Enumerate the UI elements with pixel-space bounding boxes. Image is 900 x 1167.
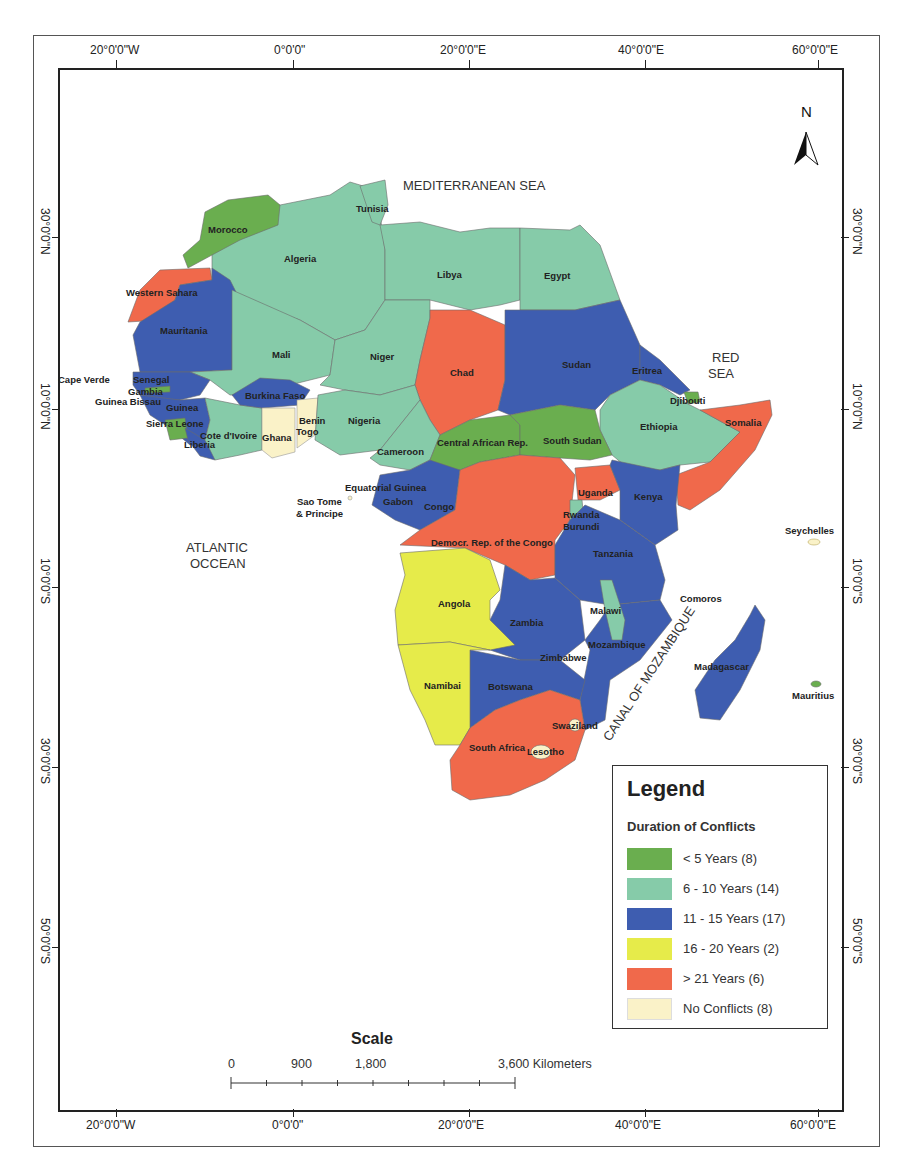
label-mozambique: Mozambique xyxy=(588,639,646,650)
sea-label-red-2: SEA xyxy=(708,366,734,381)
label-comoros: Comoros xyxy=(680,593,722,604)
sea-label-red-1: RED xyxy=(712,350,739,365)
label-kenya: Kenya xyxy=(634,491,663,502)
label-guinea: Guinea xyxy=(166,402,199,413)
legend-swatch xyxy=(627,908,672,930)
label-nigeria: Nigeria xyxy=(348,415,381,426)
label-equatorial-guinea: Equatorial Guinea xyxy=(345,482,427,493)
label-cameroon: Cameroon xyxy=(377,446,424,457)
label-swaziland: Swaziland xyxy=(552,720,598,731)
label-morocco: Morocco xyxy=(208,224,248,235)
label-car: Central African Rep. xyxy=(437,437,528,448)
legend-item: No Conflicts (8) xyxy=(627,998,817,1020)
label-burkina-faso: Burkina Faso xyxy=(245,390,305,401)
label-zimbabwe: Zimbabwe xyxy=(540,652,586,663)
label-sudan: Sudan xyxy=(562,359,591,370)
label-chad: Chad xyxy=(450,367,474,378)
country-sao-tome[interactable] xyxy=(348,496,352,500)
scale-label: 1,800 xyxy=(355,1057,386,1071)
country-seychelles[interactable] xyxy=(808,539,820,545)
scale-title: Scale xyxy=(351,1030,393,1048)
label-sao-tome-2: & Principe xyxy=(296,508,343,519)
north-label: N xyxy=(801,103,812,120)
legend-swatch xyxy=(627,968,672,990)
scale-label: 0 xyxy=(228,1057,235,1071)
legend-label: 6 - 10 Years (14) xyxy=(683,881,779,896)
label-benin: Benin xyxy=(299,415,326,426)
label-niger: Niger xyxy=(370,351,395,362)
label-uganda: Uganda xyxy=(578,487,614,498)
label-namibia: Namibai xyxy=(424,680,461,691)
label-south-sudan: South Sudan xyxy=(543,435,602,446)
label-ethiopia: Ethiopia xyxy=(640,421,678,432)
legend: Legend Duration of Conflicts < 5 Years (… xyxy=(612,765,828,1029)
label-mali: Mali xyxy=(272,349,290,360)
scale-label: 3,600 Kilometers xyxy=(498,1057,592,1071)
legend-item: 6 - 10 Years (14) xyxy=(627,878,817,900)
label-south-africa: South Africa xyxy=(469,742,526,753)
legend-label: 16 - 20 Years (2) xyxy=(683,941,779,956)
legend-swatch xyxy=(627,848,672,870)
label-ghana: Ghana xyxy=(262,432,292,443)
label-tunisia: Tunisia xyxy=(356,203,389,214)
legend-swatch xyxy=(627,938,672,960)
legend-label: No Conflicts (8) xyxy=(683,1001,773,1016)
label-tanzania: Tanzania xyxy=(593,548,634,559)
label-somalia: Somalia xyxy=(725,417,762,428)
sea-label-atlantic-1: ATLANTIC xyxy=(186,540,248,555)
label-rwanda: Rwanda xyxy=(563,509,600,520)
legend-label: > 21 Years (6) xyxy=(683,971,764,986)
legend-label: < 5 Years (8) xyxy=(683,851,757,866)
label-sierra-leone: Sierra Leone xyxy=(146,418,204,429)
country-egypt[interactable] xyxy=(520,225,620,310)
country-south-sudan[interactable] xyxy=(510,405,612,460)
label-botswana: Botswana xyxy=(488,681,534,692)
label-western-sahara: Western Sahara xyxy=(126,287,198,298)
country-mauritius[interactable] xyxy=(811,681,821,687)
label-seychelles: Seychelles xyxy=(785,525,834,536)
label-cape-verde: Cape Verde xyxy=(58,374,110,385)
label-algeria: Algeria xyxy=(284,253,317,264)
label-sao-tome-1: Sao Tome xyxy=(297,496,342,507)
label-gabon: Gabon xyxy=(383,496,413,507)
label-congo: Congo xyxy=(424,501,454,512)
country-libya[interactable] xyxy=(380,222,520,310)
label-lesotho: Lesotho xyxy=(527,746,564,757)
label-djibouti: Djibouti xyxy=(670,395,705,406)
label-zambia: Zambia xyxy=(510,617,544,628)
label-burundi: Burundi xyxy=(563,521,599,532)
north-arrow-icon xyxy=(794,132,818,165)
legend-item: > 21 Years (6) xyxy=(627,968,817,990)
legend-subtitle: Duration of Conflicts xyxy=(627,819,756,834)
label-guinea-bissau: Guinea Bissau xyxy=(95,396,161,407)
label-drc: Democr. Rep. of the Congo xyxy=(431,537,553,548)
label-cote-divoire: Cote d'Ivoire xyxy=(200,430,257,441)
label-madagascar: Madagascar xyxy=(694,661,749,672)
label-angola: Angola xyxy=(438,598,471,609)
legend-item: 11 - 15 Years (17) xyxy=(627,908,817,930)
sea-label-atlantic-2: OCCEAN xyxy=(190,556,246,571)
legend-item: < 5 Years (8) xyxy=(627,848,817,870)
sea-label-mediterranean: MEDITERRANEAN SEA xyxy=(403,178,546,193)
label-libya: Libya xyxy=(437,269,463,280)
legend-swatch xyxy=(627,998,672,1020)
label-malawi: Malawi xyxy=(590,605,621,616)
label-senegal: Senegal xyxy=(133,374,169,385)
legend-item: 16 - 20 Years (2) xyxy=(627,938,817,960)
label-togo: Togo xyxy=(296,426,319,437)
scale-bar xyxy=(228,1075,520,1091)
legend-label: 11 - 15 Years (17) xyxy=(683,911,785,926)
legend-title: Legend xyxy=(627,776,705,802)
label-eritrea: Eritrea xyxy=(632,365,663,376)
label-egypt: Egypt xyxy=(544,270,571,281)
scale-label: 900 xyxy=(291,1057,312,1071)
label-mauritania: Mauritania xyxy=(160,325,208,336)
label-mauritius: Mauritius xyxy=(792,690,834,701)
country-cote-divoire[interactable] xyxy=(205,398,262,460)
legend-swatch xyxy=(627,878,672,900)
